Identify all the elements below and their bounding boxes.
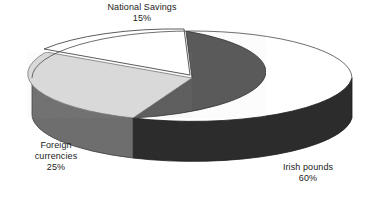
pie-label-irish-pounds-percent: 60% xyxy=(258,173,358,184)
pie-label-irish-pounds-name: Irish pounds xyxy=(258,162,358,173)
pie-label-national-savings-percent: 15% xyxy=(82,13,202,24)
pie-chart-figure: National Savings 15% Foreign currencies … xyxy=(0,0,367,197)
pie-label-national-savings-name: National Savings xyxy=(82,2,202,13)
pie-label-foreign-currencies-name-line1: Foreign xyxy=(8,140,104,151)
pie-label-foreign-currencies-name-line2: currencies xyxy=(8,151,104,162)
pie-label-national-savings: National Savings 15% xyxy=(82,2,202,24)
pie-label-irish-pounds: Irish pounds 60% xyxy=(258,162,358,184)
pie-label-foreign-currencies: Foreign currencies 25% xyxy=(8,140,104,173)
pie-label-foreign-currencies-percent: 25% xyxy=(8,162,104,173)
